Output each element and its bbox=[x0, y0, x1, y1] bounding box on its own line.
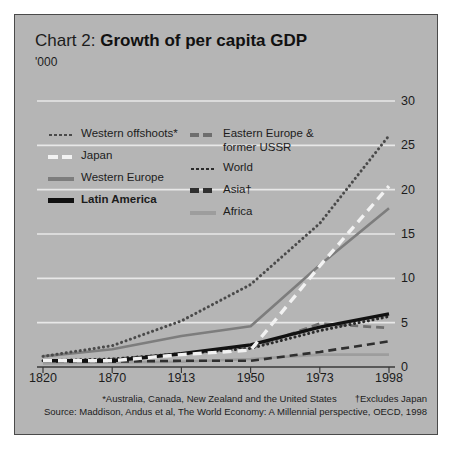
legend-item-label: Africa bbox=[223, 205, 350, 219]
x-axis-tick-label: 1870 bbox=[98, 371, 126, 385]
y-axis-tick-label: 10 bbox=[401, 271, 431, 285]
legend-swatch-icon bbox=[190, 211, 216, 215]
legend-swatch-icon bbox=[190, 167, 216, 171]
footnote-asterisk: *Australia, Canada, New Zealand and the … bbox=[102, 393, 336, 404]
legend-item[interactable]: Latin America bbox=[48, 193, 178, 208]
legend-item-label: Latin America bbox=[81, 193, 178, 207]
chart-title-prefix: Chart 2: bbox=[35, 31, 100, 50]
legend-item-label: Western Europe bbox=[81, 171, 178, 185]
y-axis-tick-label: 30 bbox=[401, 94, 431, 108]
legend-swatch-icon bbox=[48, 198, 74, 203]
legend-swatch-icon bbox=[48, 133, 74, 137]
x-axis-tick-label: 1820 bbox=[29, 371, 57, 385]
legend-column-right: Eastern Europe & former USSRWorldAsia†Af… bbox=[190, 127, 350, 227]
y-axis-tick-label: 15 bbox=[401, 227, 431, 241]
legend-item[interactable]: Western offshoots* bbox=[48, 127, 178, 142]
y-axis-tick-label: 20 bbox=[401, 183, 431, 197]
x-axis-tick-label: 1973 bbox=[306, 371, 334, 385]
footnotes: *Australia, Canada, New Zealand and the … bbox=[15, 393, 427, 417]
legend-item-label: Asia† bbox=[223, 183, 350, 197]
page-title: Chart 2: Growth of per capita GDP bbox=[35, 31, 307, 51]
legend-item-label: Japan bbox=[81, 149, 178, 163]
chart-title-main: Growth of per capita GDP bbox=[100, 31, 307, 50]
footnote-dagger: †Excludes Japan bbox=[355, 393, 427, 404]
series-line bbox=[43, 324, 389, 362]
x-axis-tick-label: 1950 bbox=[237, 371, 265, 385]
series-line bbox=[43, 208, 389, 356]
legend-item[interactable]: Western Europe bbox=[48, 171, 178, 186]
legend-item[interactable]: Asia† bbox=[190, 183, 350, 198]
x-axis-tick-label: 1913 bbox=[167, 371, 195, 385]
source-line: Source: Maddison, Andus et al, The World… bbox=[15, 406, 427, 417]
legend-swatch-icon bbox=[48, 177, 74, 181]
y-axis-tick-label: 25 bbox=[401, 138, 431, 152]
x-axis-tick-label: 1998 bbox=[375, 371, 403, 385]
units-label: '000 bbox=[35, 55, 57, 69]
legend-column-left: Western offshoots*JapanWestern EuropeLat… bbox=[48, 127, 178, 215]
y-axis-tick-label: 5 bbox=[401, 316, 431, 330]
legend-swatch-icon bbox=[190, 133, 216, 137]
legend-swatch-icon bbox=[190, 188, 216, 193]
legend-item[interactable]: Africa bbox=[190, 205, 350, 220]
legend-item[interactable]: World bbox=[190, 161, 350, 176]
y-axis-tick-label: 0 bbox=[401, 360, 431, 374]
legend-item-label: Eastern Europe & former USSR bbox=[223, 127, 350, 154]
legend-item[interactable]: Japan bbox=[48, 149, 178, 164]
footnote-row: *Australia, Canada, New Zealand and the … bbox=[15, 393, 427, 404]
chart-card: Chart 2: Growth of per capita GDP '000 0… bbox=[14, 14, 438, 435]
legend-item-label: Western offshoots* bbox=[81, 127, 178, 141]
legend-item-label: World bbox=[223, 161, 350, 175]
legend-swatch-icon bbox=[48, 155, 74, 159]
legend-item[interactable]: Eastern Europe & former USSR bbox=[190, 127, 350, 154]
